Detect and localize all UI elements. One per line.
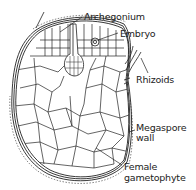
label-female-gametophyte-2: gametophyte xyxy=(124,173,186,183)
label-megaspore-wall-2: wall xyxy=(136,133,154,143)
label-female-gametophyte-1: Female xyxy=(124,162,157,172)
archegonium xyxy=(64,24,83,76)
label-archegonium: Archegonium xyxy=(84,12,145,22)
label-embryo: Embryo xyxy=(120,29,155,39)
label-rhizoids: Rhizoids xyxy=(136,75,174,85)
megaspore-diagram xyxy=(0,0,196,190)
